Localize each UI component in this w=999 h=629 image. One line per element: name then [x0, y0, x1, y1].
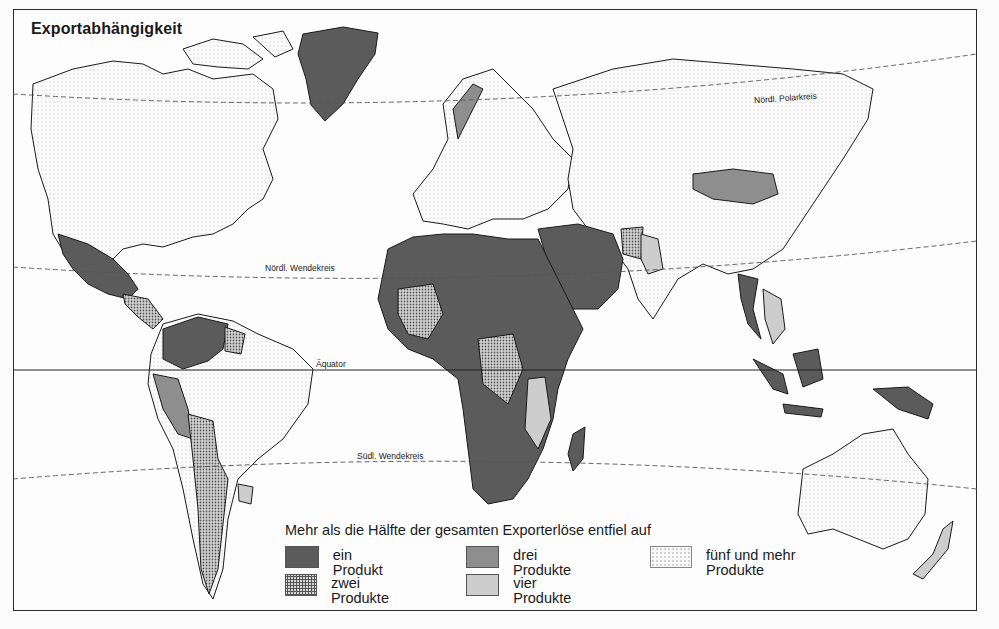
europe: [413, 69, 573, 229]
equator-label: Äquator: [316, 359, 346, 369]
legend-label: fünf und mehr Produkte: [706, 548, 826, 578]
swatch-fuenf-und-mehr: [650, 546, 692, 568]
legend-heading: Mehr als die Hälfte der gesamten Exporte…: [285, 522, 651, 538]
swatch-drei-produkte: [466, 546, 499, 568]
legend-label: zwei Produkte: [331, 576, 399, 606]
australia: [798, 429, 928, 549]
tropic-cancer-label: Nördl. Wendekreis: [265, 263, 335, 273]
tropic-capricorn-label: Südl. Wendekreis: [357, 451, 423, 461]
greenland: [298, 27, 378, 121]
legend-label: vier Produkte: [513, 576, 580, 606]
world-map: [13, 9, 977, 611]
map-title: Exportabhängigkeit: [31, 20, 182, 38]
legend-item-vier: vier Produkte: [466, 574, 580, 606]
legend-item-zwei: zwei Produkte: [285, 574, 399, 606]
swatch-zwei-produkte: [285, 574, 317, 596]
swatch-vier-produkte: [466, 574, 499, 596]
legend-item-fuenf: fünf und mehr Produkte: [650, 546, 826, 578]
swatch-ein-produkt: [285, 546, 319, 568]
